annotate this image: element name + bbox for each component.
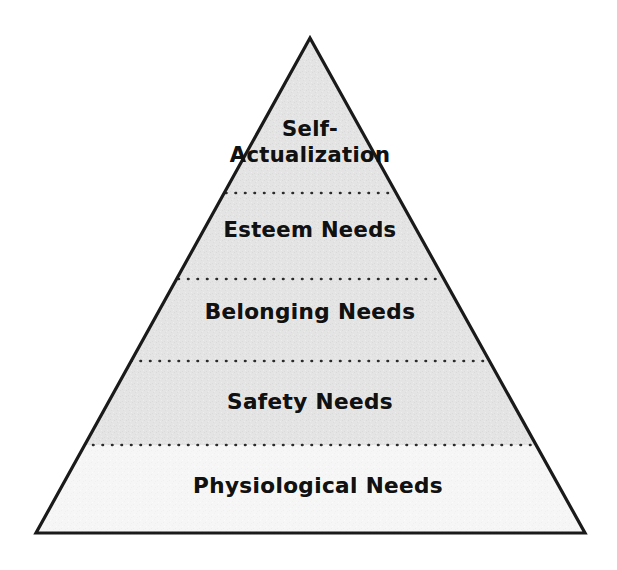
tier-label-self-actualization: Self- Actualization [178,116,442,169]
pyramid-diagram: Self- Actualization Esteem Needs Belongi… [0,0,617,570]
tier-label-esteem-needs: Esteem Needs [178,218,442,243]
pyramid-tier-fills [0,30,617,540]
tier-label-belonging-needs: Belonging Needs [166,299,454,324]
tier-label-physiological-needs: Physiological Needs [160,473,476,498]
tier-label-safety-needs: Safety Needs [178,389,442,414]
